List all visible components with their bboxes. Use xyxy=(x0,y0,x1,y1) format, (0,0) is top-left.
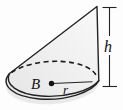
cone-figure-canvas: B r h xyxy=(0,0,123,110)
label-base-center: B xyxy=(31,76,40,92)
cone-diagram: B r h xyxy=(0,0,123,110)
base-center-dot xyxy=(49,81,54,86)
label-height: h xyxy=(104,38,112,55)
